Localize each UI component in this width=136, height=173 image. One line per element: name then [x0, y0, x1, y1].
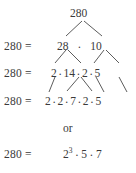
branch-root-right [84, 21, 102, 36]
connective-word: or [63, 122, 73, 134]
row-1-equals-label: 280 = [4, 40, 32, 52]
factor-tree-figure: 280 280 = 28·10 280 = 2·14·2·5 280 = 2·2… [0, 0, 136, 173]
row-4-equals-label: 280 = [4, 148, 32, 160]
row-2-expression: 2·14·2·5 [51, 67, 100, 80]
row-2-term-1: 14 [64, 67, 76, 79]
row-4-expression: 23·5·7 [63, 148, 102, 161]
row-1-expression: 28·10 [57, 40, 102, 53]
dot-icon: · [87, 149, 96, 161]
dot-icon: · [51, 96, 58, 108]
branch-10-right [106, 50, 119, 63]
branch-root-left [66, 21, 82, 36]
row-2-equals-label: 280 = [4, 67, 32, 79]
row-3-term-4: 5 [95, 95, 101, 107]
row-3-expression: 2·2·7·2·5 [45, 95, 101, 108]
row-2-term-3: 5 [95, 67, 101, 79]
dot-icon: · [57, 68, 64, 80]
row-1-term-1: 10 [90, 40, 102, 52]
root-number: 280 [70, 7, 87, 19]
branch-5-carry [119, 77, 127, 92]
dot-icon: · [88, 68, 95, 80]
dot-icon: · [69, 41, 91, 53]
root-value: 280 [70, 7, 87, 19]
dot-icon: · [75, 68, 82, 80]
row-4-factor-c: 7 [96, 148, 102, 160]
row-3-equals-label: 280 = [4, 95, 32, 107]
row-1-term-0: 28 [57, 40, 69, 52]
dot-icon: · [76, 96, 83, 108]
